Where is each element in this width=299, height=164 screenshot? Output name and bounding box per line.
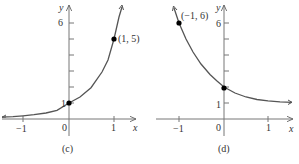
x-axis-label: x: [132, 122, 138, 133]
panel-caption: (d): [218, 143, 230, 155]
xtick-0-label: 0: [216, 122, 221, 133]
point-0-1: [66, 100, 71, 105]
panel-c: (1, 5) 6 1 y x −1 0 1 (c): [2, 2, 140, 155]
ytick-1-label: 1: [216, 99, 221, 110]
y-axis-label: y: [215, 2, 221, 13]
xtick-neg1-label: −1: [173, 123, 184, 134]
point-1-5: [111, 36, 116, 41]
y-axis-label: y: [58, 2, 64, 13]
xtick-neg1-label: −1: [16, 123, 27, 134]
decay-curve: [174, 8, 292, 102]
ytick-6-label: 6: [58, 17, 63, 28]
ytick-1-label: 1: [61, 98, 66, 109]
xtick-1-label: 1: [111, 122, 116, 133]
panel-caption: (c): [62, 143, 73, 155]
figure: (1, 5) 6 1 y x −1 0 1 (c) (−1, 6) 6: [0, 0, 299, 164]
xtick-0-label: 0: [62, 122, 67, 133]
point-neg1-6: [176, 20, 181, 25]
point-label: (−1, 6): [181, 10, 208, 22]
panel-d: (−1, 6) 6 1 y x −1 0 1 (d): [156, 2, 294, 155]
xtick-1-label: 1: [266, 122, 271, 133]
point-0-2: [221, 85, 226, 90]
ytick-6-label: 6: [216, 18, 221, 29]
point-label: (1, 5): [118, 33, 140, 45]
x-axis-label: x: [288, 123, 294, 134]
